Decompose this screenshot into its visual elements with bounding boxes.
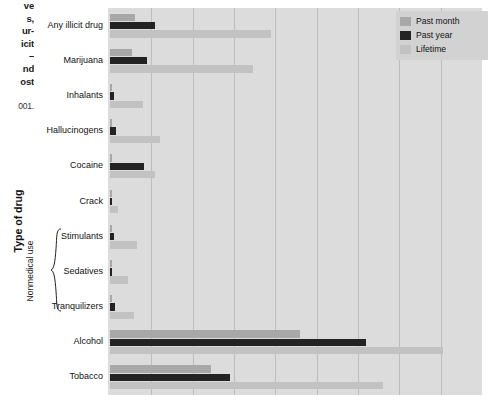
bar-tobacco-past-month xyxy=(110,365,211,372)
bar-sedatives-lifetime xyxy=(110,276,128,283)
bar-tranquilizers-lifetime xyxy=(110,312,134,319)
bar-crack-lifetime xyxy=(110,206,118,213)
legend-swatch-month-icon xyxy=(400,17,411,26)
bar-alcohol-past-year xyxy=(110,339,366,346)
bar-tobacco-past-year xyxy=(110,374,230,381)
category-label-tranquilizers: Tranquilizers xyxy=(9,301,103,311)
gridline xyxy=(358,8,359,395)
bar-marijuana-past-month xyxy=(110,49,132,56)
bar-crack-past-month xyxy=(110,190,112,197)
bar-any-illicit-drug-past-year xyxy=(110,22,155,29)
bar-crack-past-year xyxy=(110,198,112,205)
bar-sedatives-past-year xyxy=(110,268,112,275)
bar-cocaine-lifetime xyxy=(110,171,155,178)
category-label-alcohol: Alcohol xyxy=(9,336,103,346)
category-label-list: Any illicit drugMarijuanaInhalantsHalluc… xyxy=(0,0,103,401)
legend-item-year[interactable]: Past year xyxy=(400,28,484,42)
bar-hallucinogens-past-month xyxy=(110,119,112,126)
category-label-cocaine: Cocaine xyxy=(9,160,103,170)
bar-inhalants-lifetime xyxy=(110,101,143,108)
category-label-sedatives: Sedatives xyxy=(9,266,103,276)
bar-alcohol-past-month xyxy=(110,330,300,337)
legend-item-month[interactable]: Past month xyxy=(400,14,484,28)
legend-label-year: Past year xyxy=(416,30,452,40)
y-axis-line xyxy=(107,8,108,395)
bar-stimulants-lifetime xyxy=(110,241,137,248)
legend-swatch-life-icon xyxy=(400,45,411,54)
gridline xyxy=(441,8,442,395)
bar-tranquilizers-past-year xyxy=(110,303,115,310)
legend: Past monthPast yearLifetime xyxy=(396,11,488,60)
bar-alcohol-lifetime xyxy=(110,347,443,354)
bar-marijuana-past-year xyxy=(110,57,147,64)
category-label-crack: Crack xyxy=(9,196,103,206)
legend-item-life[interactable]: Lifetime xyxy=(400,42,484,56)
bar-stimulants-past-month xyxy=(110,225,112,232)
bar-stimulants-past-year xyxy=(110,233,114,240)
gridline xyxy=(399,8,400,395)
legend-swatch-year-icon xyxy=(400,31,411,40)
category-label-any-illicit-drug: Any illicit drug xyxy=(9,20,103,30)
bar-cocaine-past-year xyxy=(110,163,144,170)
category-label-hallucinogens: Hallucinogens xyxy=(9,125,103,135)
bar-any-illicit-drug-lifetime xyxy=(110,30,271,37)
legend-label-month: Past month xyxy=(416,16,459,26)
category-label-stimulants: Stimulants xyxy=(9,231,103,241)
category-label-marijuana: Marijuana xyxy=(9,55,103,65)
bar-inhalants-past-year xyxy=(110,92,114,99)
legend-label-life: Lifetime xyxy=(416,44,446,54)
bar-hallucinogens-past-year xyxy=(110,127,116,134)
category-label-inhalants: Inhalants xyxy=(9,90,103,100)
bar-marijuana-lifetime xyxy=(110,65,253,72)
gridline xyxy=(317,8,318,395)
plot-area xyxy=(107,8,482,395)
bar-cocaine-past-month xyxy=(110,154,112,161)
bar-any-illicit-drug-past-month xyxy=(110,14,135,21)
bar-tobacco-lifetime xyxy=(110,382,383,389)
bar-tranquilizers-past-month xyxy=(110,295,112,302)
bar-sedatives-past-month xyxy=(110,260,112,267)
category-label-tobacco: Tobacco xyxy=(9,371,103,381)
bar-hallucinogens-lifetime xyxy=(110,136,160,143)
bar-inhalants-past-month xyxy=(110,84,112,91)
